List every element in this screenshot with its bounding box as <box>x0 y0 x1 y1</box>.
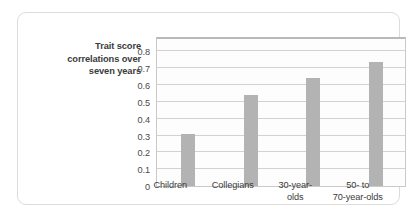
y-tick-label-0-3: 0.3 <box>116 132 150 142</box>
y-tick-label-0-1: 0.1 <box>116 165 150 175</box>
y-tick-label-0-6: 0.6 <box>116 81 150 91</box>
bar-30-year-olds <box>306 78 320 186</box>
y-tick-label-0-2: 0.2 <box>116 148 150 158</box>
figure-card: Trait score correlations over seven year… <box>17 12 400 205</box>
figure-root: Trait score correlations over seven year… <box>0 0 415 218</box>
bar-children <box>181 134 195 186</box>
y-tick-label-0-4: 0.4 <box>116 115 150 125</box>
bar-collegians <box>244 95 258 186</box>
y-tick-label-0-8: 0.8 <box>116 47 150 57</box>
y-tick-label-0-5: 0.5 <box>116 98 150 108</box>
y-tick-label-0-7: 0.7 <box>116 64 150 74</box>
plot-area <box>156 37 406 187</box>
bar-50-to-70-year-olds <box>369 62 383 186</box>
x-label-50-to-70-year-olds: 50- to 70-year-olds <box>314 180 403 203</box>
bar-series <box>157 39 405 186</box>
